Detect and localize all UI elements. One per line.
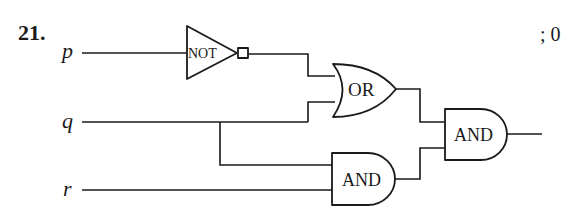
input-label-q: q xyxy=(62,108,73,133)
not-gate: NOT xyxy=(187,26,248,79)
and-gate-lower: AND xyxy=(332,153,395,205)
wire-or-to-and xyxy=(396,89,445,122)
or-gate: OR xyxy=(333,64,396,117)
wire-not-to-or xyxy=(248,54,335,76)
problem-number: 21. xyxy=(18,20,46,45)
wire-q-to-or xyxy=(308,102,335,122)
and-gate-final-label: AND xyxy=(454,125,493,145)
input-label-r: r xyxy=(63,176,72,201)
logic-circuit-diagram: 21. ; 0 p q r NOT OR AND xyxy=(0,0,582,220)
and-gate-lower-label: AND xyxy=(342,170,381,190)
input-label-p: p xyxy=(60,38,73,63)
wire-and-to-and xyxy=(395,148,445,179)
or-gate-label: OR xyxy=(348,79,375,100)
not-gate-bubble-square xyxy=(238,48,248,58)
answer-text: ; 0 xyxy=(540,23,561,45)
and-gate-final: AND xyxy=(445,109,507,160)
wire-q-to-and xyxy=(220,122,332,165)
not-gate-label: NOT xyxy=(188,46,217,61)
